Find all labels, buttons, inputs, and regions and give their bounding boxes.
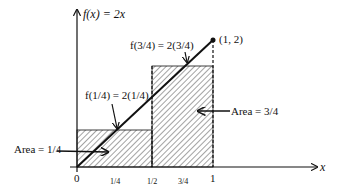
function-title: f(x) = 2x (83, 7, 126, 21)
left-rectangle (77, 130, 152, 167)
tick-0: 0 (74, 172, 80, 184)
x-axis-label: x (319, 160, 326, 174)
f34-arrow (185, 52, 187, 62)
tick-1-2: 1/2 (147, 177, 157, 186)
right-rectangle (152, 66, 213, 167)
point-label: (1, 2) (219, 33, 243, 46)
tick-1-4: 1/4 (110, 177, 120, 186)
area-left-label: Area = 1/4 (14, 143, 62, 155)
tick-1: 1 (210, 172, 216, 184)
area-right-label: Area = 3/4 (231, 105, 279, 117)
f14-arrow (112, 104, 117, 128)
tick-3-4: 3/4 (178, 177, 188, 186)
area-left-arrow (57, 151, 108, 152)
endpoint-dot (211, 38, 216, 43)
f14-label: f(1/4) = 2(1/4) (85, 89, 149, 102)
f34-label: f(3/4) = 2(3/4) (130, 39, 194, 52)
riemann-sum-diagram: f(x) = 2x (1, 2) f(3/4) = 2(3/4) f(1/4) … (0, 0, 345, 193)
